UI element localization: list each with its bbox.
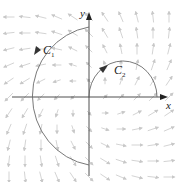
c1-label-main: C	[43, 43, 51, 57]
field-vector-arrow-icon	[136, 12, 139, 23]
field-vector-arrow-icon	[152, 44, 154, 55]
field-vector-arrow-icon	[132, 160, 143, 162]
c1-direction-arrow-icon	[34, 46, 41, 55]
field-vector-arrow-icon	[40, 156, 42, 167]
field-vector-arrow-icon	[117, 112, 124, 114]
field-vector-arrow-icon	[164, 144, 175, 147]
field-vector-arrow-icon	[148, 127, 158, 130]
field-vector-arrow-icon	[68, 14, 77, 20]
field-vector-arrow-icon	[103, 45, 107, 53]
field-vector-arrow-icon	[120, 44, 122, 54]
field-vector-arrow-icon	[52, 15, 62, 19]
field-vector-arrow-icon	[166, 76, 172, 85]
field-vector-arrow-icon	[148, 110, 157, 116]
c1-label: C1	[43, 44, 55, 59]
field-vector-arrow-icon	[24, 172, 25, 182]
field-vector-arrow-icon	[133, 111, 141, 115]
field-vector-arrow-icon	[132, 176, 143, 179]
field-vector-arrow-icon	[7, 124, 11, 134]
field-vector-arrow-icon	[116, 144, 126, 146]
field-vector-arrow-icon	[4, 48, 15, 51]
field-vector-arrow-icon	[8, 156, 9, 167]
field-vector-arrow-icon	[5, 93, 13, 101]
field-vector-arrow-icon	[4, 32, 15, 33]
field-vector-arrow-icon	[167, 60, 171, 70]
field-vector-arrow-icon	[69, 64, 76, 66]
field-vector-arrow-icon	[116, 159, 126, 162]
c1-label-sub: 1	[51, 51, 55, 59]
field-vector-arrow-icon	[168, 28, 169, 39]
field-vector-arrow-icon	[116, 175, 126, 179]
field-vector-arrow-icon	[20, 63, 30, 66]
c2-label-sub: 2	[122, 71, 126, 79]
field-vector-arrow-icon	[8, 140, 11, 151]
field-vector-arrow-icon	[36, 64, 46, 66]
field-vector-arrow-icon	[148, 144, 159, 146]
field-vector-arrow-icon	[6, 108, 12, 117]
field-vector-arrow-icon	[22, 108, 28, 117]
field-vector-arrow-icon	[164, 127, 174, 131]
field-vector-arrow-icon	[136, 60, 138, 70]
y-axis-arrowhead-icon	[86, 12, 92, 20]
field-vector-arrow-icon	[168, 44, 171, 55]
field-vector-arrow-icon	[36, 16, 47, 19]
field-vector-arrow-icon	[119, 12, 123, 22]
field-vector-arrow-icon	[101, 128, 108, 130]
field-vector-arrow-icon	[24, 140, 26, 151]
field-vector-arrow-icon	[4, 63, 14, 67]
x-axis-label: x	[166, 100, 171, 111]
field-vector-arrow-icon	[37, 79, 45, 83]
field-vector-arrow-icon	[100, 174, 109, 180]
field-vector-arrow-icon	[55, 156, 58, 166]
field-vector-arrow-icon	[39, 109, 43, 117]
y-axis-label: y	[80, 8, 85, 19]
c2-direction-arrow-icon	[99, 65, 108, 73]
field-vector-arrow-icon	[56, 109, 58, 116]
field-vector-arrow-icon	[100, 158, 109, 164]
field-vector-arrow-icon	[102, 28, 108, 37]
field-vector-arrow-icon	[53, 80, 60, 82]
field-vector-arrow-icon	[23, 124, 26, 134]
field-vector-arrow-icon	[136, 28, 138, 39]
field-vector-arrow-icon	[101, 143, 109, 147]
field-vector-arrow-icon	[119, 28, 122, 38]
field-vector-arrow-icon	[20, 48, 31, 50]
field-vector-arrow-icon	[164, 160, 175, 161]
field-vector-arrow-icon	[56, 140, 58, 150]
c2-label-main: C	[114, 63, 122, 77]
field-vector-arrow-icon	[69, 47, 77, 51]
field-vector-arrow-icon	[135, 77, 139, 85]
field-vector-arrow-icon	[148, 176, 159, 177]
field-vector-arrow-icon	[36, 32, 47, 34]
field-vector-arrow-icon	[72, 125, 74, 132]
field-vector-arrow-icon	[40, 172, 43, 182]
diagram-svg	[0, 0, 179, 182]
field-vector-arrow-icon	[71, 141, 75, 149]
field-vector-arrow-icon	[151, 60, 154, 70]
field-vector-arrow-icon	[4, 78, 13, 84]
field-vector-arrow-icon	[55, 172, 59, 182]
field-vector-arrow-icon	[52, 31, 62, 34]
field-vector-arrow-icon	[20, 16, 31, 17]
vector-field-diagram: y x C1 C2	[0, 0, 179, 182]
field-vector-arrow-icon	[102, 12, 108, 21]
c2-label: C2	[114, 64, 126, 79]
field-vector-arrow-icon	[152, 12, 153, 23]
field-vector-arrow-icon	[20, 78, 29, 84]
field-vector-arrow-icon	[70, 172, 76, 181]
field-vector-arrow-icon	[132, 128, 142, 130]
